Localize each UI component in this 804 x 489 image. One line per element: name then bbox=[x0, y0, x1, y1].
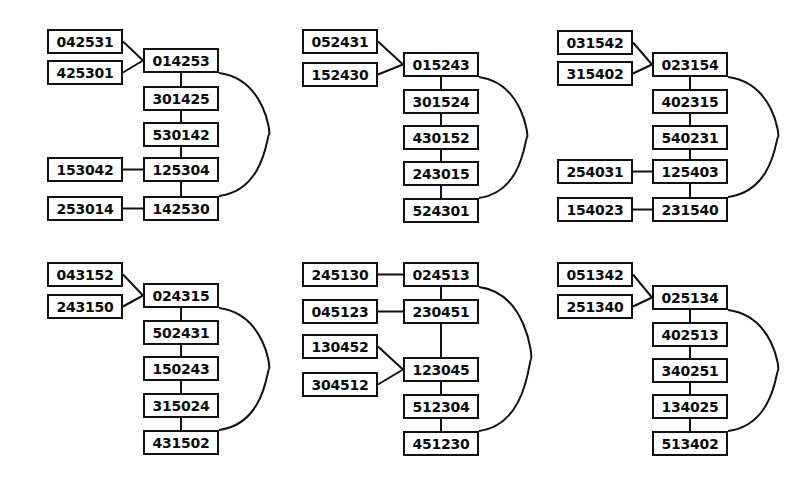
chain-node: 015243 bbox=[403, 52, 479, 77]
chain-node: 231540 bbox=[652, 197, 728, 222]
satellite-node: 251340 bbox=[557, 294, 633, 319]
satellite-node: 315402 bbox=[557, 61, 633, 86]
chain-node: 315024 bbox=[143, 393, 219, 418]
chain-node: 340251 bbox=[652, 358, 728, 383]
chain-node: 024513 bbox=[403, 262, 479, 287]
satellite-node: 045123 bbox=[302, 299, 378, 324]
chain-node: 431502 bbox=[143, 430, 219, 455]
chain-node: 502431 bbox=[143, 320, 219, 345]
chain-node: 230451 bbox=[403, 299, 479, 324]
satellite-node: 130452 bbox=[302, 334, 378, 359]
chain-node: 123045 bbox=[403, 357, 479, 382]
satellite-node: 245130 bbox=[302, 262, 378, 287]
satellite-node: 153042 bbox=[47, 157, 123, 182]
chain-node: 134025 bbox=[652, 394, 728, 419]
satellite-node: 052431 bbox=[302, 29, 378, 54]
chain-node: 451230 bbox=[403, 431, 479, 456]
chain-node: 025134 bbox=[652, 285, 728, 310]
chain-node: 014253 bbox=[143, 48, 219, 73]
wraparound-arc bbox=[728, 310, 778, 431]
chain-node: 512304 bbox=[403, 394, 479, 419]
satellite-node: 253014 bbox=[47, 196, 123, 221]
chain-node: 024315 bbox=[143, 283, 219, 308]
chain-node: 243015 bbox=[403, 161, 479, 186]
satellite-node: 243150 bbox=[47, 294, 123, 319]
satellite-node: 154023 bbox=[557, 197, 633, 222]
chain-node: 142530 bbox=[143, 196, 219, 221]
chain-node: 301524 bbox=[403, 89, 479, 114]
chain-node: 125403 bbox=[652, 159, 728, 184]
chain-node: 150243 bbox=[143, 356, 219, 381]
chain-node: 513402 bbox=[652, 431, 728, 456]
chain-node: 524301 bbox=[403, 198, 479, 223]
chain-node: 430152 bbox=[403, 125, 479, 150]
satellite-node: 152430 bbox=[302, 62, 378, 87]
satellite-node: 042531 bbox=[47, 29, 123, 54]
chain-node: 530142 bbox=[143, 122, 219, 147]
satellite-node: 031542 bbox=[557, 30, 633, 55]
chain-node: 540231 bbox=[652, 125, 728, 150]
satellite-node: 425301 bbox=[47, 60, 123, 85]
satellite-link-0 bbox=[633, 275, 652, 298]
satellite-node: 254031 bbox=[557, 159, 633, 184]
satellite-node: 043152 bbox=[47, 262, 123, 287]
chain-node: 402513 bbox=[652, 322, 728, 347]
satellite-node: 051342 bbox=[557, 262, 633, 287]
chain-node: 125304 bbox=[143, 157, 219, 182]
satellite-node: 304512 bbox=[302, 372, 378, 397]
chain-node: 023154 bbox=[652, 52, 728, 77]
satellite-link-1 bbox=[633, 298, 652, 307]
permutation-cycle-figure: 0425314253011530422530140142533014255301… bbox=[0, 0, 804, 489]
chain-node: 301425 bbox=[143, 86, 219, 111]
chain-node: 402315 bbox=[652, 89, 728, 114]
